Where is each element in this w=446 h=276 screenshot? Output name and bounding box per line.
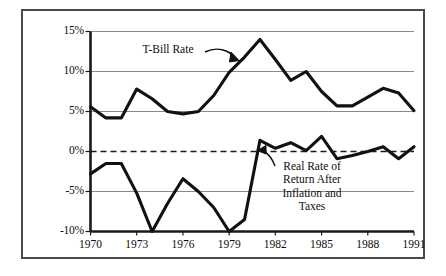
annotation-line: Return After [264, 173, 360, 186]
y-tick-label: -10% [40, 224, 84, 236]
annotation-real-rate-of-return: Real Rate ofReturn AfterInflation andTax… [264, 160, 360, 214]
x-tick-label: 1985 [298, 238, 346, 250]
annotation-line: Inflation and [264, 187, 360, 200]
x-tick-label: 1988 [344, 238, 392, 250]
x-tick-label: 1979 [205, 238, 253, 250]
annotation-line: Taxes [264, 200, 360, 213]
y-tick-label: 5% [40, 104, 84, 116]
y-tick-label: 15% [40, 24, 84, 36]
x-tick-label: 1976 [159, 238, 207, 250]
tbill-arrow-head [230, 52, 240, 62]
annotation-arrows-group [205, 49, 275, 166]
annotation-tbill-rate: T-Bill Rate [128, 43, 208, 56]
x-tick-label: 1973 [113, 238, 161, 250]
series-lines-group [91, 40, 415, 232]
x-tick-label: 1982 [251, 238, 299, 250]
y-tick-label: 10% [40, 64, 84, 76]
x-tick-label: 1991 [390, 238, 438, 250]
y-tick-label: 0% [40, 144, 84, 156]
annotation-line: Real Rate of [264, 160, 360, 173]
x-tick-label: 1970 [67, 238, 115, 250]
series-line-1 [91, 136, 415, 231]
y-tick-label: -5% [40, 184, 84, 196]
axis-lines [86, 32, 415, 236]
